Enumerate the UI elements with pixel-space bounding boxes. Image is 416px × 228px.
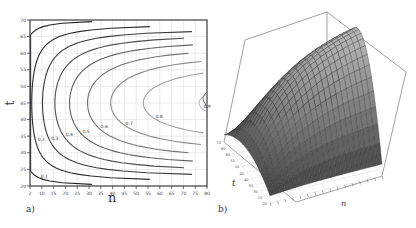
panel-label-a: a) [26, 204, 35, 214]
svg-text:0.1: 0.1 [41, 174, 48, 179]
svg-text:40: 40 [244, 178, 249, 182]
svg-text:30: 30 [253, 190, 258, 194]
svg-text:20: 20 [63, 191, 69, 196]
y-axis-label: t [3, 101, 17, 106]
svg-text:65: 65 [221, 147, 226, 151]
svg-text:50: 50 [20, 84, 26, 89]
svg-text:30: 30 [20, 150, 26, 155]
svg-text:0.5: 0.5 [82, 129, 89, 134]
svg-text:10: 10 [39, 191, 45, 196]
surface-plot: 2025303540455055606570 [210, 0, 416, 228]
svg-text:45: 45 [239, 172, 244, 176]
svg-text:0.7: 0.7 [126, 121, 133, 126]
svg-text:55: 55 [145, 191, 151, 196]
svg-text:0.4: 0.4 [66, 132, 73, 137]
svg-text:55: 55 [230, 159, 235, 163]
svg-text:75: 75 [192, 191, 198, 196]
svg-text:50: 50 [133, 191, 139, 196]
svg-text:60: 60 [20, 51, 26, 56]
svg-text:35: 35 [249, 184, 254, 188]
svg-text:15: 15 [51, 191, 57, 196]
svg-text:70: 70 [181, 191, 187, 196]
svg-text:20: 20 [262, 202, 267, 206]
svg-text:0.3: 0.3 [51, 136, 58, 141]
svg-text:65: 65 [20, 34, 26, 39]
svg-text:0.2: 0.2 [38, 137, 45, 142]
svg-text:60: 60 [226, 153, 231, 157]
svg-text:70: 70 [20, 18, 26, 23]
svg-text:35: 35 [20, 134, 26, 139]
svg-text:45: 45 [122, 191, 128, 196]
svg-text:20: 20 [20, 184, 26, 189]
svg-text:55: 55 [20, 67, 26, 72]
surface-plot-panel: 2025303540455055606570 t n b) [210, 0, 416, 228]
svg-text:25: 25 [258, 196, 263, 200]
svg-text:40: 40 [20, 117, 26, 122]
svg-text:60: 60 [157, 191, 163, 196]
n-axis-label: n [341, 199, 346, 208]
svg-text:0.6: 0.6 [101, 124, 108, 129]
svg-text:25: 25 [74, 191, 80, 196]
svg-text:30: 30 [86, 191, 92, 196]
svg-text:35: 35 [98, 191, 104, 196]
x-axis-label: n [108, 190, 116, 205]
svg-text:45: 45 [20, 101, 26, 106]
svg-text:70: 70 [216, 141, 221, 145]
svg-text:2: 2 [29, 191, 32, 196]
t-axis-label: t [232, 178, 236, 188]
svg-text:50: 50 [235, 165, 240, 169]
panel-label-b: b) [218, 204, 227, 214]
contour-plot: 2101520253035404550556065707580202530354… [0, 0, 212, 228]
svg-text:25: 25 [20, 167, 26, 172]
svg-text:0.8: 0.8 [155, 114, 162, 119]
contour-plot-panel: 2101520253035404550556065707580202530354… [0, 0, 212, 228]
svg-text:65: 65 [169, 191, 175, 196]
